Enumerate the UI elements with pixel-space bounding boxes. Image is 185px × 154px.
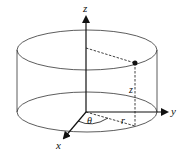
cylindrical-coordinates-diagram: z y x θ r z bbox=[0, 0, 185, 154]
top-radius-dashed bbox=[86, 48, 135, 63]
z-height-label: z bbox=[128, 84, 133, 95]
x-axis bbox=[64, 112, 86, 138]
y-axis-label: y bbox=[170, 105, 176, 117]
x-axis-label: x bbox=[55, 139, 61, 151]
z-axis-label: z bbox=[82, 2, 88, 14]
r-label: r bbox=[121, 115, 125, 126]
theta-arc bbox=[78, 118, 108, 124]
point-marker bbox=[133, 61, 138, 66]
theta-label: θ bbox=[87, 115, 92, 126]
